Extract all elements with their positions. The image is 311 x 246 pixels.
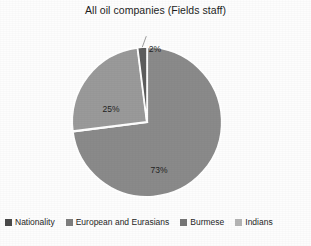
- chart-legend: Nationality European and Eurasians Burme…: [0, 212, 311, 232]
- legend-swatch-icon: [5, 219, 12, 226]
- chart-title: All oil companies (Fields staff): [0, 3, 311, 17]
- slice-label-2-percent: 2%: [137, 44, 173, 54]
- legend-item-label: European and Eurasians: [76, 217, 170, 228]
- legend-item-indians[interactable]: Indians: [235, 217, 272, 228]
- legend-item-burmese[interactable]: Burmese: [180, 217, 224, 228]
- legend-item-label: Nationality: [15, 217, 55, 228]
- legend-swatch-icon: [66, 219, 73, 226]
- legend-swatch-icon: [180, 219, 187, 226]
- pie-slice-burmese[interactable]: [72, 48, 147, 132]
- pie-plot-area: 2% 25% 73%: [0, 18, 311, 206]
- legend-item-nationality[interactable]: Nationality: [5, 217, 55, 228]
- legend-swatch-icon: [235, 219, 242, 226]
- pie-chart-figure: All oil companies (Fields staff) 2% 25% …: [0, 0, 311, 246]
- slice-label-73-percent: 73%: [143, 165, 175, 175]
- slice-label-25-percent: 25%: [95, 104, 127, 114]
- legend-item-label: Burmese: [190, 217, 224, 228]
- legend-item-label: Indians: [245, 217, 272, 228]
- legend-item-european-and-eurasians[interactable]: European and Eurasians: [66, 217, 170, 228]
